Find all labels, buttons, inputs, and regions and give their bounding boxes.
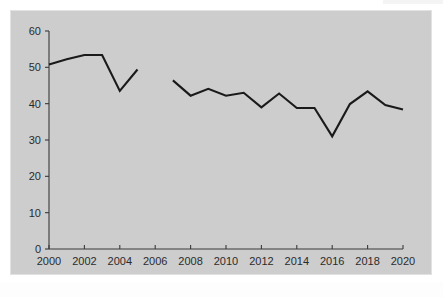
x-tick-label: 2016	[320, 255, 344, 267]
series-polyline-segment-1	[49, 55, 138, 91]
x-tick-label: 2010	[214, 255, 238, 267]
y-tick-label: 50	[29, 61, 41, 73]
x-tick-label: 2006	[143, 255, 167, 267]
axes	[49, 31, 403, 249]
line-chart: 0102030405060 20002002200420062008201020…	[0, 0, 443, 297]
x-tick-label: 2004	[108, 255, 132, 267]
y-tick-label: 40	[29, 98, 41, 110]
x-tick-label: 2002	[72, 255, 96, 267]
figure-root: 0102030405060 20002002200420062008201020…	[0, 0, 443, 297]
data-series-group	[49, 55, 403, 136]
y-tick-label: 60	[29, 25, 41, 37]
series-polyline-segment-2	[173, 80, 403, 136]
x-tick-label: 2018	[355, 255, 379, 267]
y-tick-label: 30	[29, 134, 41, 146]
y-tick-label: 0	[35, 243, 41, 255]
y-tick-label: 20	[29, 170, 41, 182]
y-tick-label: 10	[29, 207, 41, 219]
x-tick-label: 2020	[391, 255, 415, 267]
x-tick-label: 2000	[37, 255, 61, 267]
x-tick-label: 2014	[285, 255, 309, 267]
x-axis-ticks: 2000200220042006200820102012201420162018…	[37, 245, 415, 267]
x-tick-label: 2012	[249, 255, 273, 267]
y-axis-ticks: 0102030405060	[29, 25, 49, 255]
x-tick-label: 2008	[178, 255, 202, 267]
